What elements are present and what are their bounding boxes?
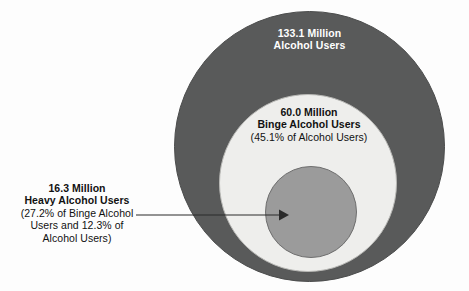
label-heavy-alcohol-users-line3: (27.2% of Binge Alcohol [4, 207, 150, 219]
label-binge-alcohol-users: 60.0 Million Binge Alcohol Users (45.1% … [234, 106, 384, 143]
label-heavy-alcohol-users-line4: Users and 12.3% of [4, 219, 150, 231]
circle-heavy-alcohol-users [265, 166, 357, 258]
label-alcohol-users: 133.1 Million Alcohol Users [239, 27, 380, 52]
label-heavy-alcohol-users-line1: 16.3 Million [4, 182, 150, 194]
label-binge-alcohol-users-line3: (45.1% of Alcohol Users) [234, 131, 384, 143]
label-heavy-alcohol-users-line5: Alcohol Users) [4, 232, 150, 244]
label-heavy-alcohol-users-line2: Heavy Alcohol Users [4, 194, 150, 206]
label-alcohol-users-line1: 133.1 Million [239, 27, 380, 39]
label-alcohol-users-line2: Alcohol Users [239, 39, 380, 51]
label-heavy-alcohol-users: 16.3 Million Heavy Alcohol Users (27.2% … [4, 182, 150, 244]
label-binge-alcohol-users-line2: Binge Alcohol Users [234, 118, 384, 130]
label-binge-alcohol-users-line1: 60.0 Million [234, 106, 384, 118]
diagram-canvas: 133.1 Million Alcohol Users 60.0 Million… [0, 0, 469, 291]
